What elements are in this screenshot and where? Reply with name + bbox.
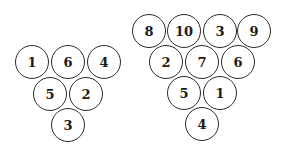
circle-node: 4 [185, 107, 219, 141]
circle-node: 10 [167, 14, 201, 48]
circle-node: 5 [167, 76, 201, 110]
circle-node: 7 [185, 45, 219, 79]
circle-node: 9 [237, 14, 271, 48]
circle-node: 2 [149, 45, 183, 79]
circle-node: 5 [33, 77, 67, 111]
circle-node: 6 [221, 45, 255, 79]
circle-node: 1 [15, 45, 49, 79]
circle-node: 3 [203, 14, 237, 48]
diagram-canvas: 1 6 4 5 2 3 8 10 3 9 2 7 6 5 1 4 [0, 0, 288, 153]
circle-node: 2 [69, 77, 103, 111]
circle-node: 8 [132, 14, 166, 48]
circle-node: 1 [203, 76, 237, 110]
circle-node: 4 [87, 45, 121, 79]
circle-node: 3 [51, 108, 85, 142]
circle-node: 6 [51, 45, 85, 79]
